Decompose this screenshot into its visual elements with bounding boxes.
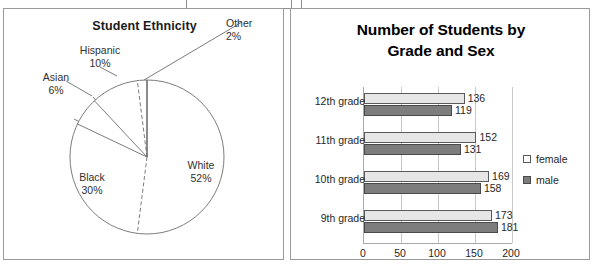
pie-label-asian-pct: 6% [34, 84, 78, 97]
bar-female-11th-grade [364, 132, 476, 143]
pie-label-asian-text: Asian [43, 71, 69, 83]
bar-value-male-9th-grade: 181 [501, 222, 519, 233]
bar-value-female-12th-grade: 136 [468, 93, 486, 104]
pie-label-other-text: Other [226, 17, 252, 29]
bar-value-male-10th-grade: 158 [484, 183, 502, 194]
pie-label-asian: Asian 6% [34, 71, 78, 96]
pie-label-white: White 52% [176, 159, 226, 184]
pie-svg [4, 9, 285, 261]
pie-label-black-text: Black [79, 171, 105, 183]
bar-chart-plot-area [363, 87, 512, 244]
pie-chart-panel: Student Ethnicity Other 2% [3, 8, 284, 260]
bar-male-9th-grade [364, 222, 498, 233]
pie-label-white-pct: 52% [176, 172, 226, 185]
pie-label-other: Other 2% [226, 17, 255, 42]
bar-male-11th-grade [364, 144, 461, 155]
bar-value-male-11th-grade: 131 [464, 144, 482, 155]
category-label-11th-grade: 11th grade [316, 134, 365, 146]
x-axis-tick-150: 150 [459, 247, 489, 259]
pie-label-hispanic-pct: 10% [68, 57, 132, 70]
x-axis-tick-50: 50 [385, 247, 415, 259]
pie-label-hispanic-text: Hispanic [80, 44, 120, 56]
bar-value-female-11th-grade: 152 [479, 132, 497, 143]
pie-label-other-pct: 2% [226, 30, 255, 43]
bar-value-female-10th-grade: 169 [492, 171, 510, 182]
pie-label-black: Black 30% [66, 171, 118, 196]
bar-chart-panel: Number of Students by Grade and Sex fema… [290, 8, 590, 260]
bar-female-10th-grade [364, 171, 489, 182]
bar-chart-title-line1: Number of Students by [297, 19, 585, 40]
pie-label-white-text: White [188, 159, 215, 171]
legend-swatch-male-icon [523, 176, 531, 184]
bar-value-male-12th-grade: 119 [455, 105, 472, 116]
x-axis-tick-200: 200 [496, 247, 526, 259]
scan-artifact-divider [291, 0, 292, 8]
bar-female-12th-grade [364, 93, 465, 104]
legend-item-female: female [523, 153, 568, 165]
legend-label-male: male [536, 174, 559, 186]
pie-label-hispanic: Hispanic 10% [68, 44, 132, 69]
legend-swatch-female-icon [523, 155, 531, 163]
bar-chart-legend: female male [523, 153, 568, 195]
pie-chart-graphic: Other 2% Hispanic 10% Asian 6% Black 30%… [4, 9, 285, 261]
category-label-10th-grade: 10th grade [315, 173, 365, 185]
x-axis-tick-0: 0 [348, 247, 378, 259]
bar-male-12th-grade [364, 105, 452, 116]
x-axis-tick-100: 100 [422, 247, 452, 259]
legend-label-female: female [536, 153, 568, 165]
bar-male-10th-grade [364, 183, 481, 194]
category-label-12th-grade: 12th grade [315, 95, 365, 107]
bar-chart-title: Number of Students by Grade and Sex [297, 19, 585, 61]
bar-female-9th-grade [364, 210, 492, 221]
legend-item-male: male [523, 174, 568, 186]
pie-label-black-pct: 30% [66, 184, 118, 197]
category-label-9th-grade: 9th grade [321, 212, 365, 224]
bar-chart-title-line2: Grade and Sex [297, 40, 585, 61]
bar-value-female-9th-grade: 173 [495, 210, 513, 221]
